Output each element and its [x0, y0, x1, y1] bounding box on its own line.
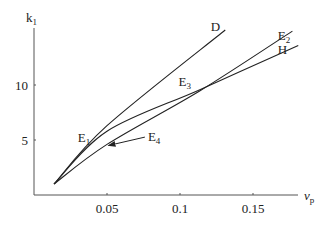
- series: [54, 30, 298, 184]
- y-axis-label: k1: [26, 10, 37, 27]
- y-tick-label: 10: [15, 78, 28, 93]
- x-axis-label: vp: [304, 188, 315, 205]
- x-tick-label: 0.05: [96, 201, 119, 216]
- annotation-label: E4: [148, 129, 161, 146]
- x-tick-label: 0.1: [172, 201, 188, 216]
- annotations: DE2HE3E1E4: [78, 19, 290, 147]
- annotation-label: H: [278, 42, 287, 57]
- x-tick-label: 0.15: [242, 201, 265, 216]
- annotation-label: E1: [78, 130, 90, 147]
- series-line-d: [54, 30, 225, 184]
- annotation-label: E3: [179, 74, 192, 91]
- chart: k1 vp 0.050.10.15510 DE2HE3E1E4: [0, 0, 333, 227]
- annotation-label: D: [211, 19, 220, 34]
- series-line-e2: [54, 31, 292, 184]
- annotation-arrow: [108, 137, 144, 145]
- y-tick-label: 5: [22, 133, 29, 148]
- series-line-h: [54, 45, 298, 184]
